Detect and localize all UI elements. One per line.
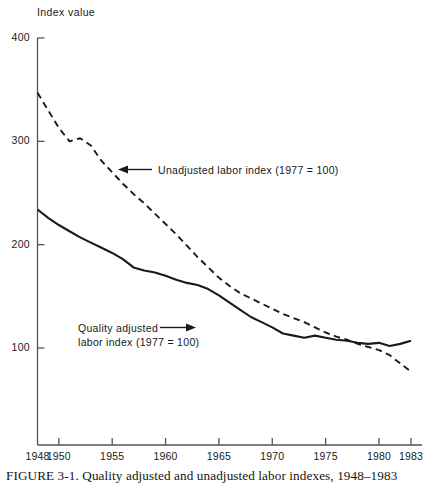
x-tick-label: 1980 [363,450,395,462]
quality-adjusted-label-line1: Quality adjusted [78,321,199,335]
chart-axes [38,38,423,445]
x-tick-label: 1970 [256,450,288,462]
quality-adjusted-series-label: Quality adjusted labor index (1977 = 100… [78,321,199,349]
figure-caption: FIGURE 3-1. Quality adjusted and unadjus… [6,468,430,484]
y-tick-label: 300 [2,134,30,146]
unadjusted-arrow-icon [118,166,152,174]
x-tick-label: 1965 [203,450,235,462]
x-tick-label: 1975 [310,450,342,462]
x-tick-label: 1960 [150,450,182,462]
y-tick-label: 400 [2,31,30,43]
x-tick-label: 1955 [96,450,128,462]
y-tick-label: 200 [2,238,30,250]
annotation-arrows [118,166,196,332]
x-tick-label: 1950 [43,450,75,462]
x-tick-label: 1983 [395,450,427,462]
chart-plot-area [0,0,434,488]
figure-container: Index value 100200300400 194819501955196… [0,0,434,488]
quality-adjusted-label-line2: labor index (1977 = 100) [78,335,199,349]
unadjusted-series-label-text: Unadjusted labor index (1977 = 100) [158,164,339,176]
y-tick-label: 100 [2,341,30,353]
unadjusted-series-label: Unadjusted labor index (1977 = 100) [158,163,339,177]
